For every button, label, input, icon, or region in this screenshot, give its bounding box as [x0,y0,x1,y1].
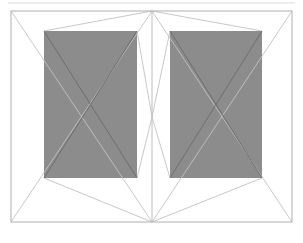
drawing-canvas [0,0,303,243]
technical-drawing [0,0,303,243]
